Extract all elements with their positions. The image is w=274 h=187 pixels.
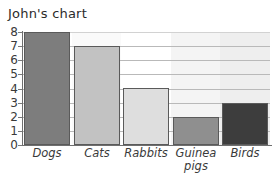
y-tick-label: 0 bbox=[2, 139, 18, 151]
y-tick-label: 6 bbox=[2, 54, 18, 66]
y-axis-line bbox=[22, 31, 23, 146]
y-tick-mark bbox=[18, 32, 22, 33]
y-tick-label: 8 bbox=[2, 26, 18, 38]
y-tick-mark bbox=[18, 103, 22, 104]
bar-birds[interactable] bbox=[222, 103, 268, 145]
bar-dogs[interactable] bbox=[24, 32, 70, 145]
bar-cats[interactable] bbox=[74, 46, 120, 145]
x-tick-label-rabbits: Rabbits bbox=[121, 147, 171, 160]
y-tick-label: 4 bbox=[2, 83, 18, 95]
y-axis-labels: 876543210 bbox=[0, 32, 18, 145]
bar-guinea-pigs[interactable] bbox=[173, 117, 219, 145]
y-tick-mark bbox=[18, 60, 22, 61]
x-axis-labels: DogsCatsRabbitsGuinea pigsBirds bbox=[22, 147, 272, 185]
y-tick-mark bbox=[18, 74, 22, 75]
x-tick-label-guinea-pigs: Guinea pigs bbox=[171, 147, 221, 173]
y-tick-label: 2 bbox=[2, 111, 18, 123]
y-tick-label: 1 bbox=[2, 125, 18, 137]
x-tick-label-cats: Cats bbox=[72, 147, 122, 160]
y-tick-label: 7 bbox=[2, 40, 18, 52]
bar-rabbits[interactable] bbox=[123, 88, 169, 145]
x-tick-label-dogs: Dogs bbox=[22, 147, 72, 160]
x-tick-label-birds: Birds bbox=[220, 147, 270, 160]
bar-chart: John's chart 876543210 DogsCatsRabbitsGu… bbox=[0, 0, 274, 187]
y-tick-mark bbox=[18, 131, 22, 132]
y-tick-mark bbox=[18, 46, 22, 47]
plot-area bbox=[22, 32, 270, 145]
chart-title: John's chart bbox=[8, 6, 87, 21]
y-tick-mark bbox=[18, 117, 22, 118]
y-tick-label: 5 bbox=[2, 68, 18, 80]
y-tick-label: 3 bbox=[2, 97, 18, 109]
y-tick-mark bbox=[18, 145, 22, 146]
y-tick-mark bbox=[18, 89, 22, 90]
